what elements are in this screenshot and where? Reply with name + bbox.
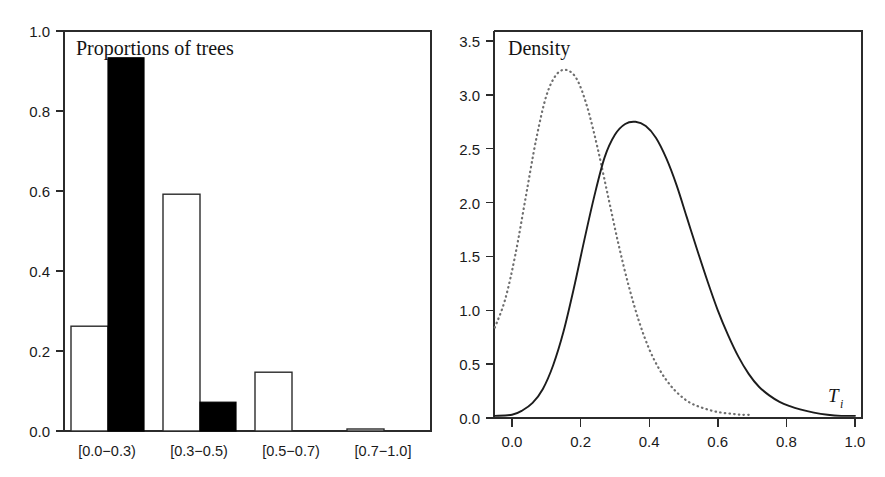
- category-labels: [0.0−0.3) [0.3−0.5) [0.5−0.7) [0.7−1.0]: [78, 443, 411, 459]
- y-tick-label: 0.2: [29, 343, 50, 360]
- bar-open-2: [163, 194, 200, 431]
- axis-name-base: T: [828, 385, 840, 406]
- y-tick-label: 0.8: [29, 103, 50, 120]
- panel-title-density: Density: [508, 37, 570, 60]
- y-axis-ticks: [486, 41, 494, 418]
- y-axis-tick-labels: 3.5 3.0 2.5 2.0 1.5 1.0 0.5 0.0: [459, 33, 480, 427]
- bar-open-3: [255, 372, 292, 431]
- bar-open-1: [71, 326, 108, 431]
- x-tick-label: 0.2: [570, 433, 591, 450]
- y-tick-label: 0.5: [459, 356, 480, 373]
- proportions-chart-svg: 1.0 0.8 0.6 0.4 0.2 0.0 Proportions of t…: [0, 0, 445, 477]
- y-axis-tick-labels: 1.0 0.8 0.6 0.4 0.2 0.0: [29, 23, 50, 440]
- bar-group-category-3: [255, 372, 292, 431]
- density-curve-dotted: [495, 70, 752, 415]
- x-tick-label: 0.6: [707, 433, 728, 450]
- category-label-4: [0.7−1.0]: [355, 443, 412, 459]
- x-tick-label: 0.0: [502, 433, 523, 450]
- x-axis-tick-labels: 0.0 0.2 0.4 0.6 0.8 1.0: [502, 433, 866, 450]
- x-tick-label: 1.0: [845, 433, 866, 450]
- figure-two-panel: 1.0 0.8 0.6 0.4 0.2 0.0 Proportions of t…: [0, 0, 885, 477]
- y-tick-label: 0.6: [29, 183, 50, 200]
- bar-group-category-2: [163, 194, 236, 431]
- bar-group-category-4: [347, 429, 384, 431]
- y-tick-label: 2.5: [459, 141, 480, 158]
- y-tick-label: 0.0: [459, 410, 480, 427]
- y-tick-label: 3.0: [459, 87, 480, 104]
- bar-filled-2: [200, 402, 236, 431]
- bar-open-4: [347, 429, 384, 431]
- category-label-1: [0.0−0.3): [78, 443, 136, 459]
- axis-name-subscript: i: [840, 397, 843, 411]
- y-tick-label: 0.0: [29, 423, 50, 440]
- y-tick-label: 0.4: [29, 263, 50, 280]
- y-tick-label: 1.0: [29, 23, 50, 40]
- category-label-2: [0.3−0.5): [170, 443, 228, 459]
- x-tick-label: 0.4: [639, 433, 660, 450]
- y-tick-label: 1.5: [459, 248, 480, 265]
- x-axis-ticks: [512, 418, 855, 427]
- x-tick-label: 0.8: [776, 433, 797, 450]
- panel-proportions-of-trees: 1.0 0.8 0.6 0.4 0.2 0.0 Proportions of t…: [0, 0, 445, 477]
- panel-title-proportions: Proportions of trees: [76, 37, 234, 60]
- category-label-3: [0.5−0.7): [262, 443, 320, 459]
- bar-filled-1: [108, 58, 144, 431]
- y-tick-label: 2.0: [459, 195, 480, 212]
- density-curve-solid: [495, 122, 855, 416]
- panel-density: 3.5 3.0 2.5 2.0 1.5 1.0 0.5 0.0 0.0: [440, 0, 885, 477]
- density-chart-svg: 3.5 3.0 2.5 2.0 1.5 1.0 0.5 0.0 0.0: [440, 0, 885, 477]
- y-tick-label: 1.0: [459, 302, 480, 319]
- x-axis-name: T i: [828, 385, 843, 411]
- y-axis-ticks: [56, 31, 64, 431]
- bar-group-category-1: [71, 58, 144, 431]
- y-tick-label: 3.5: [459, 33, 480, 50]
